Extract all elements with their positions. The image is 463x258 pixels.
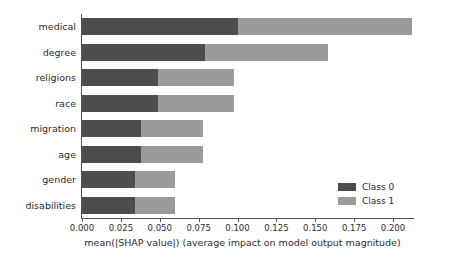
x-tick-mark <box>393 219 394 222</box>
bar-segment-class-1 <box>141 120 203 137</box>
x-tick-label-0.125: 0.125 <box>264 223 288 233</box>
x-tick-label-0.150: 0.150 <box>303 223 327 233</box>
x-tick-label-0.100: 0.100 <box>225 223 249 233</box>
y-tick-label-migration: migration <box>2 120 76 137</box>
x-tick-mark <box>160 219 161 222</box>
y-tick-label-degree: degree <box>2 44 76 61</box>
x-tick-label-0.075: 0.075 <box>186 223 210 233</box>
legend-swatch-icon <box>338 197 356 205</box>
legend-label: Class 0 <box>362 182 394 192</box>
x-tick-mark <box>354 219 355 222</box>
legend-label: Class 1 <box>362 196 394 206</box>
bar-segment-class-1 <box>158 95 234 112</box>
x-tick-mark <box>276 219 277 222</box>
x-tick-label-0.025: 0.025 <box>109 223 133 233</box>
bar-segment-class-0 <box>82 95 158 112</box>
x-tick-label-0.175: 0.175 <box>342 223 366 233</box>
x-tick-mark <box>82 219 83 222</box>
bar-segment-class-0 <box>82 69 158 86</box>
legend-entry-class-1[interactable]: Class 1 <box>338 194 414 208</box>
x-tick-label-0.000: 0.000 <box>70 223 94 233</box>
bar-segment-class-0 <box>82 197 135 214</box>
x-tick-mark <box>315 219 316 222</box>
y-tick-label-race: race <box>2 95 76 112</box>
chart-legend: Class 0Class 1 <box>338 180 414 208</box>
y-tick-label-age: age <box>2 146 76 163</box>
x-tick-mark <box>238 219 239 222</box>
bar-segment-class-1 <box>238 18 412 35</box>
x-tick-mark <box>199 219 200 222</box>
y-tick-label-medical: medical <box>2 18 76 35</box>
legend-swatch-icon <box>338 183 356 191</box>
bar-segment-class-0 <box>82 120 141 137</box>
legend-entry-class-0[interactable]: Class 0 <box>338 180 414 194</box>
y-axis-tick-labels: medicaldegreereligionsracemigrationagege… <box>0 14 76 218</box>
bar-segment-class-0 <box>82 44 205 61</box>
x-axis-title: mean(|SHAP value|) (average impact on mo… <box>0 237 463 248</box>
x-tick-label-0.200: 0.200 <box>381 223 405 233</box>
y-tick-label-gender: gender <box>2 171 76 188</box>
bar-segment-class-0 <box>82 171 135 188</box>
bar-segment-class-1 <box>135 197 175 214</box>
bar-segment-class-1 <box>135 171 175 188</box>
bar-segment-class-1 <box>141 146 203 163</box>
x-axis-ticks: 0.0000.0250.0500.0750.1000.1250.1500.175… <box>0 219 463 237</box>
bar-segment-class-0 <box>82 146 141 163</box>
x-tick-mark <box>121 219 122 222</box>
bar-segment-class-1 <box>205 44 328 61</box>
y-tick-label-religions: religions <box>2 69 76 86</box>
x-tick-label-0.050: 0.050 <box>148 223 172 233</box>
bar-segment-class-0 <box>82 18 238 35</box>
shap-summary-bar-chart: medicaldegreereligionsracemigrationagege… <box>0 0 463 258</box>
y-tick-label-disabilities: disabilities <box>2 197 76 214</box>
bar-segment-class-1 <box>158 69 234 86</box>
